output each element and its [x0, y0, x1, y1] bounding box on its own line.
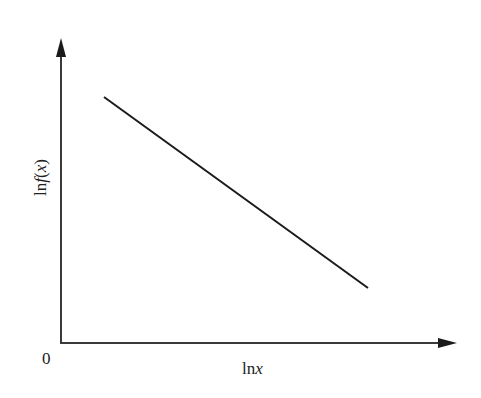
y-axis-label: lnf(x) — [31, 159, 51, 196]
y-label-fn: ln — [31, 183, 50, 196]
y-axis-arrow-icon — [56, 38, 66, 57]
y-label-close: ) — [31, 159, 50, 165]
origin-label: 0 — [42, 349, 51, 369]
data-line — [104, 97, 368, 288]
chart-svg — [0, 0, 481, 398]
x-axis-arrow-icon — [438, 338, 457, 348]
y-label-open: ( — [31, 172, 50, 178]
x-label-var: x — [255, 359, 263, 378]
x-label-fn: ln — [242, 359, 255, 378]
y-label-var: x — [31, 165, 50, 173]
chart-canvas: lnf(x) lnx 0 — [0, 0, 481, 398]
x-axis-label: lnx — [242, 359, 263, 379]
y-label-f: f — [31, 178, 50, 183]
